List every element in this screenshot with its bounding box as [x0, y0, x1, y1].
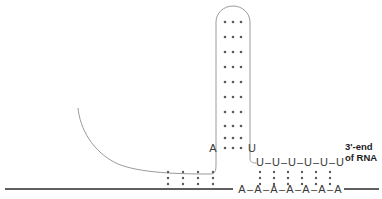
dna-base-a-4: A: [286, 183, 294, 195]
rna-upstream-curve: [78, 108, 210, 174]
rna-dash-4: –: [313, 156, 320, 168]
rna-dash-1: –: [265, 156, 272, 168]
rna-base-u-2: U: [272, 156, 280, 168]
dna-base-a-1: A: [238, 183, 246, 195]
three-prime-end-label-line1: 3'-end: [345, 141, 373, 152]
dna-base-a-5: A: [302, 183, 310, 195]
rna-poly-u-tail: U – U – U – U – U – U: [256, 156, 344, 168]
rna-base-u-6: U: [336, 156, 344, 168]
dna-dash-4: –: [295, 183, 302, 195]
dna-dash-3: –: [279, 183, 286, 195]
dna-dash-1: –: [247, 183, 254, 195]
dna-base-a-2: A: [254, 183, 262, 195]
three-prime-end-label-line2: of RNA: [345, 152, 377, 163]
terminal-base-u: U: [248, 142, 256, 154]
dna-base-a-3: A: [270, 183, 278, 195]
dna-dash-2: –: [263, 183, 270, 195]
rna-dash-5: –: [329, 156, 336, 168]
dna-base-a-7: A: [334, 183, 342, 195]
rna-dash-3: –: [297, 156, 304, 168]
rna-hairpin-figure: A U U – U – U – U – U – U: [0, 0, 382, 199]
rna-dash-2: –: [281, 156, 288, 168]
hairpin-loop-outline: [216, 6, 250, 150]
rna-base-u-5: U: [320, 156, 328, 168]
dna-dash-5: –: [311, 183, 318, 195]
dna-base-a-6: A: [318, 183, 326, 195]
dna-dash-6: –: [327, 183, 334, 195]
terminal-pair-bond-dots: [224, 147, 243, 150]
stem-bond-dots: [224, 21, 243, 140]
rna-base-u-1: U: [256, 156, 264, 168]
terminal-base-a: A: [209, 142, 217, 154]
diagram-canvas: A U U – U – U – U – U – U: [0, 0, 382, 199]
rna-base-u-4: U: [304, 156, 312, 168]
rna-base-u-3: U: [288, 156, 296, 168]
dna-poly-a-template: A – A – A – A – A – A – A: [238, 183, 342, 195]
